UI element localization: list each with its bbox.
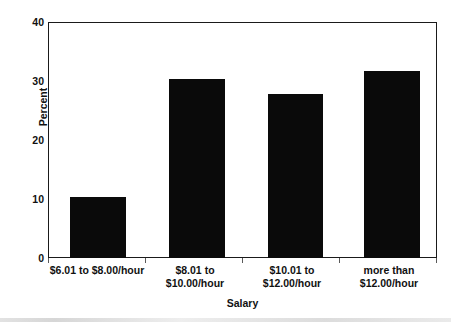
x-tick-mark-2 xyxy=(242,258,243,263)
x-tick-label-3-line2: $12.00/hour xyxy=(239,277,345,290)
bar-chart-figure: Percent 40 30 20 10 0 $6.01 to $8.00/hou… xyxy=(0,0,451,322)
y-tick-label-20: 20 xyxy=(24,135,44,145)
x-axis-title: Salary xyxy=(48,297,437,310)
bar-1 xyxy=(70,197,126,258)
x-axis-tick-labels: $6.01 to $8.00/hour $8.01 to $10.00/hour… xyxy=(48,264,437,298)
bar-3 xyxy=(268,94,323,258)
y-tick-label-10: 10 xyxy=(24,194,44,204)
x-tick-label-1-line1: $6.01 to $8.00/hour xyxy=(50,264,145,276)
x-tick-label-4: more than $12.00/hour xyxy=(336,264,442,290)
x-tick-label-1: $6.01 to $8.00/hour xyxy=(42,264,152,277)
plot-area xyxy=(48,22,437,258)
x-tick-mark-1 xyxy=(145,258,146,263)
bar-4 xyxy=(364,71,420,258)
bar-2 xyxy=(169,79,225,258)
y-axis-tick-labels: 40 30 20 10 0 xyxy=(24,0,44,322)
y-tick-label-30: 30 xyxy=(24,76,44,86)
x-tick-label-3: $10.01 to $12.00/hour xyxy=(239,264,345,290)
x-tick-mark-3 xyxy=(339,258,340,263)
x-tick-label-2: $8.01 to $10.00/hour xyxy=(142,264,248,290)
y-tick-label-40: 40 xyxy=(24,17,44,27)
x-tick-label-2-line1: $8.01 to xyxy=(175,264,214,276)
x-tick-label-4-line1: more than xyxy=(364,264,415,276)
y-tick-label-0: 0 xyxy=(24,253,44,263)
x-tick-label-2-line2: $10.00/hour xyxy=(142,277,248,290)
x-tick-mark-4 xyxy=(436,258,437,263)
x-tick-label-4-line2: $12.00/hour xyxy=(336,277,442,290)
scan-artifact xyxy=(0,318,451,322)
x-tick-label-3-line1: $10.01 to xyxy=(270,264,315,276)
x-tick-mark-0 xyxy=(48,258,49,263)
